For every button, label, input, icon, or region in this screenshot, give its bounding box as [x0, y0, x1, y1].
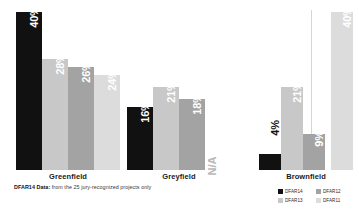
bar-value-label: 28% — [55, 53, 66, 74]
legend-item-dfar12[interactable]: DFAR12 — [316, 188, 354, 195]
bar-brownfield-dfar14[interactable]: 4% — [259, 154, 281, 170]
bar-greyfield-dfar13[interactable]: 21% — [153, 87, 179, 170]
bar-value-label: 9% — [314, 131, 325, 147]
bar-slot-brownfield-dfar14: 4% — [259, 12, 281, 170]
bar-value-label: 16% — [140, 101, 151, 122]
bar-slot-brownfield-dfar12: 9% — [303, 12, 325, 170]
bar-value-label: 4% — [270, 120, 281, 136]
plot-area: 40% 28% 26% 24% — [0, 6, 359, 170]
bar-slot-greenfield-dfar12: 26% — [68, 12, 94, 170]
bar-value-label: 18% — [192, 93, 203, 114]
bar-slot-greyfield-dfar14: 16% — [127, 12, 153, 170]
bar-brownfield-dfar11[interactable]: 40% — [331, 12, 353, 170]
footnote-lead: DFAR14 Data: — [14, 184, 50, 190]
footnote: DFAR14 Data: from the 25 jury-recognized… — [14, 184, 151, 190]
legend-swatch-icon — [316, 198, 321, 203]
bar-greenfield-dfar14[interactable]: 40% — [16, 12, 42, 170]
bar-slot-greyfield-dfar12: 18% — [179, 12, 205, 170]
bar-value-label: 40% — [29, 6, 40, 27]
legend-label: DFAR13 — [285, 198, 303, 203]
bar-group-greyfield-bars: 16% 21% 18% N/A — [127, 12, 231, 170]
bar-chart: 40% 28% 26% 24% — [0, 0, 359, 216]
category-label-greyfield: Greyfield — [127, 172, 231, 181]
bar-value-label: 40% — [342, 6, 353, 27]
bar-slot-greenfield-dfar13: 28% — [42, 12, 68, 170]
legend-label: DFAR12 — [323, 189, 341, 194]
legend-swatch-icon — [278, 189, 283, 194]
bar-group-greenfield-bars: 40% 28% 26% 24% — [16, 12, 120, 170]
bar-slot-greyfield-dfar11: N/A — [205, 12, 231, 170]
legend-swatch-icon — [278, 198, 283, 203]
category-label-greenfield: Greenfield — [16, 172, 120, 181]
legend-label: DFAR11 — [323, 198, 340, 203]
bar-brownfield-dfar13[interactable]: 21% — [281, 87, 303, 170]
bar-slot-greyfield-dfar13: 21% — [153, 12, 179, 170]
bar-greyfield-dfar12[interactable]: 18% — [179, 99, 205, 170]
bar-greyfield-dfar14[interactable]: 16% — [127, 107, 153, 170]
bar-group-brownfield-bars: 4% 21% 9% 40% — [259, 12, 353, 170]
bar-value-label: 21% — [292, 81, 303, 102]
bar-greenfield-dfar11[interactable]: 24% — [94, 75, 120, 170]
legend: DFAR14 DFAR12 DFAR13 DFAR11 — [278, 188, 356, 204]
legend-item-dfar13[interactable]: DFAR13 — [278, 197, 316, 204]
legend-item-dfar11[interactable]: DFAR11 — [316, 197, 354, 204]
bar-greenfield-dfar13[interactable]: 28% — [42, 59, 68, 170]
bar-slot-brownfield-dfar13: 21% — [281, 12, 303, 170]
bar-slot-greenfield-dfar11: 24% — [94, 12, 120, 170]
bar-brownfield-dfar12[interactable]: 9% — [303, 134, 325, 170]
legend-label: DFAR14 — [285, 189, 303, 194]
bar-greenfield-dfar12[interactable]: 26% — [68, 67, 94, 170]
bar-slot-brownfield-dfar11: 40% — [331, 12, 353, 170]
category-label-brownfield: Brownfield — [259, 172, 353, 181]
bar-value-label: 26% — [81, 61, 92, 82]
footnote-text: from the 25 jury-recognized projects onl… — [52, 184, 151, 190]
legend-item-dfar14[interactable]: DFAR14 — [278, 188, 316, 195]
legend-swatch-icon — [316, 189, 321, 194]
bar-value-label: 21% — [166, 81, 177, 102]
bar-slot-greenfield-dfar14: 40% — [16, 12, 42, 170]
bar-value-label: 24% — [107, 69, 118, 90]
